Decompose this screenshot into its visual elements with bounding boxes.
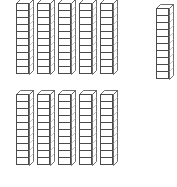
rod <box>100 94 113 164</box>
rod <box>37 3 50 73</box>
unit-cube <box>156 71 169 79</box>
rod <box>79 3 92 73</box>
rod <box>79 94 92 164</box>
rod <box>37 94 50 164</box>
unit-cube <box>100 157 113 165</box>
rod <box>100 3 113 73</box>
rod <box>58 94 71 164</box>
unit-cube <box>16 157 29 165</box>
unit-cube <box>37 157 50 165</box>
unit-cube <box>79 157 92 165</box>
unit-cube <box>37 66 50 74</box>
unit-cube <box>58 157 71 165</box>
rod <box>58 3 71 73</box>
unit-cube <box>16 66 29 74</box>
unit-cube <box>100 66 113 74</box>
base-ten-blocks-scene <box>0 0 177 187</box>
rod <box>156 8 169 78</box>
unit-cube <box>79 66 92 74</box>
unit-cube <box>58 66 71 74</box>
rod <box>16 3 29 73</box>
rod <box>16 94 29 164</box>
